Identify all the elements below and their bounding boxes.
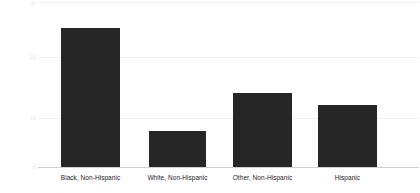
y-tick-20: 20: [0, 54, 36, 61]
gridline-30: [38, 2, 419, 3]
plot-area: 30 20 10 0 Black, Non-Hispanic White, No…: [0, 0, 420, 193]
bar-black-non-hispanic: [61, 28, 120, 167]
category-label-white-non-hispanic: White, Non-Hispanic: [135, 173, 220, 182]
y-tick-0: 0: [0, 164, 36, 171]
x-axis-line: [38, 167, 419, 168]
y-tick-label-10: 10: [2, 115, 36, 121]
category-label-other-non-hispanic: Other, Non-Hispanic: [220, 173, 305, 182]
y-tick-label-0: 0: [2, 164, 36, 170]
y-tick-label-30: 30: [2, 0, 36, 6]
y-tick-10: 10: [0, 115, 36, 122]
y-tick-label-20: 20: [2, 54, 36, 60]
y-tick-30: 30: [0, 0, 36, 7]
bar-white-non-hispanic: [149, 131, 206, 167]
category-label-hispanic: Hispanic: [305, 173, 390, 182]
bar-chart: 30 20 10 0 Black, Non-Hispanic White, No…: [0, 0, 420, 193]
bar-other-non-hispanic: [233, 93, 292, 167]
category-label-black-non-hispanic: Black, Non-Hispanic: [48, 173, 133, 182]
bar-hispanic: [318, 105, 377, 167]
